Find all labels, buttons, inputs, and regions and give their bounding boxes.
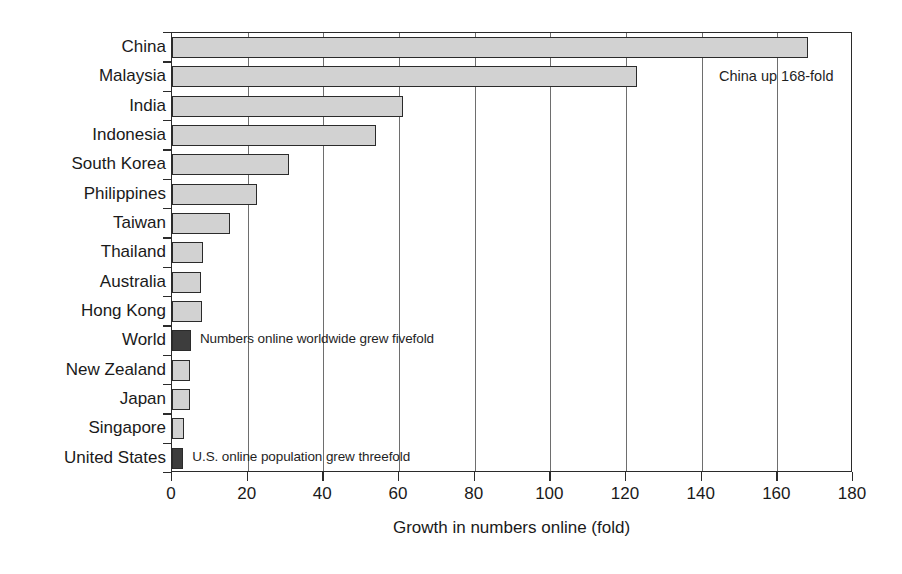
x-tick-100 bbox=[549, 472, 550, 481]
bar-row bbox=[172, 414, 851, 443]
plot-area: Numbers online worldwide grew fivefoldU.… bbox=[171, 32, 852, 472]
x-tick-160 bbox=[776, 472, 777, 481]
bar-thailand bbox=[172, 242, 203, 263]
annotation-world-callout: Numbers online worldwide grew fivefold bbox=[200, 331, 434, 346]
category-label-singapore: Singapore bbox=[0, 413, 166, 442]
bar-south-korea bbox=[172, 154, 289, 175]
category-label-new-zealand: New Zealand bbox=[0, 355, 166, 384]
x-tick-label-100: 100 bbox=[519, 484, 579, 504]
category-label-hong-kong: Hong Kong bbox=[0, 296, 166, 325]
bar-row bbox=[172, 356, 851, 385]
category-label-south-korea: South Korea bbox=[0, 149, 166, 178]
x-tick-label-180: 180 bbox=[822, 484, 882, 504]
bar-united-states bbox=[172, 448, 183, 469]
x-tick-label-80: 80 bbox=[444, 484, 504, 504]
x-tick-20 bbox=[247, 472, 248, 481]
bar-singapore bbox=[172, 418, 184, 439]
bar-row bbox=[172, 92, 851, 121]
category-label-thailand: Thailand bbox=[0, 237, 166, 266]
bar-china bbox=[172, 37, 808, 58]
bar-australia bbox=[172, 272, 201, 293]
category-label-australia: Australia bbox=[0, 267, 166, 296]
bar-hong-kong bbox=[172, 301, 202, 322]
bar-row bbox=[172, 268, 851, 297]
annotation-us-callout: U.S. online population grew threefold bbox=[192, 449, 410, 464]
x-tick-label-0: 0 bbox=[141, 484, 201, 504]
bar-indonesia bbox=[172, 125, 376, 146]
x-tick-140 bbox=[701, 472, 702, 481]
x-tick-0 bbox=[171, 472, 172, 481]
x-tick-label-120: 120 bbox=[595, 484, 655, 504]
category-label-philippines: Philippines bbox=[0, 179, 166, 208]
bar-taiwan bbox=[172, 213, 230, 234]
bar-row: U.S. online population grew threefold bbox=[172, 444, 851, 473]
x-tick-label-60: 60 bbox=[368, 484, 428, 504]
bar-row bbox=[172, 150, 851, 179]
bar-india bbox=[172, 96, 403, 117]
bar-row bbox=[172, 385, 851, 414]
bar-chart-figure: ChinaMalaysiaIndiaIndonesiaSouth KoreaPh… bbox=[0, 0, 902, 574]
bar-row bbox=[172, 121, 851, 150]
bar-row: Numbers online worldwide grew fivefold bbox=[172, 326, 851, 355]
x-axis-title: Growth in numbers online (fold) bbox=[171, 518, 852, 538]
x-tick-40 bbox=[322, 472, 323, 481]
bar-row bbox=[172, 238, 851, 267]
bar-malaysia bbox=[172, 66, 637, 87]
category-label-taiwan: Taiwan bbox=[0, 208, 166, 237]
x-tick-label-160: 160 bbox=[746, 484, 806, 504]
x-tick-180 bbox=[852, 472, 853, 481]
category-label-china: China bbox=[0, 32, 166, 61]
bar-philippines bbox=[172, 184, 257, 205]
bar-new-zealand bbox=[172, 360, 190, 381]
x-tick-label-40: 40 bbox=[292, 484, 352, 504]
x-tick-label-140: 140 bbox=[671, 484, 731, 504]
category-label-united-states: United States bbox=[0, 443, 166, 472]
x-tick-80 bbox=[474, 472, 475, 481]
bar-row bbox=[172, 33, 851, 62]
category-label-malaysia: Malaysia bbox=[0, 61, 166, 90]
category-label-india: India bbox=[0, 91, 166, 120]
bar-japan bbox=[172, 389, 190, 410]
x-tick-60 bbox=[398, 472, 399, 481]
annotation-china-callout: China up 168-fold bbox=[719, 68, 833, 84]
category-label-indonesia: Indonesia bbox=[0, 120, 166, 149]
x-tick-120 bbox=[625, 472, 626, 481]
bar-row bbox=[172, 297, 851, 326]
bar-row bbox=[172, 180, 851, 209]
bar-row bbox=[172, 209, 851, 238]
x-tick-label-20: 20 bbox=[217, 484, 277, 504]
category-label-japan: Japan bbox=[0, 384, 166, 413]
category-label-world: World bbox=[0, 325, 166, 354]
bar-world bbox=[172, 330, 191, 351]
